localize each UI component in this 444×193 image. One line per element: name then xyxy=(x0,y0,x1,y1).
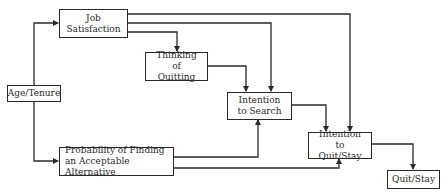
node-thinking-of-quitting: Thinking of Quitting xyxy=(145,52,208,81)
edge-intention-quit-to-quit-stay xyxy=(371,144,413,169)
node-label: Job Satisfaction xyxy=(66,13,120,35)
edge-age-to-probability xyxy=(34,101,58,161)
node-age-tenure: Age/Tenure xyxy=(7,85,61,102)
edge-probability-to-intention-search xyxy=(173,120,258,157)
edge-thinking-to-intention-search xyxy=(207,66,246,91)
node-label: Intention to Quit/Stay xyxy=(315,129,365,162)
node-label: Probability of Finding an Acceptable Alt… xyxy=(65,145,165,178)
node-intention-to-quit-stay: Intention to Quit/Stay xyxy=(308,132,372,159)
node-probability-alternative: Probability of Finding an Acceptable Alt… xyxy=(59,147,174,176)
node-label: Age/Tenure xyxy=(8,88,60,99)
node-intention-to-search: Intention to Search xyxy=(227,92,292,120)
node-job-satisfaction: Job Satisfaction xyxy=(59,9,128,38)
node-label: Intention to Search xyxy=(234,95,285,117)
node-label: Quit/Stay xyxy=(392,174,435,185)
edge-job-satisfaction-to-thinking xyxy=(127,32,177,51)
edge-age-to-job-satisfaction xyxy=(34,23,58,85)
node-quit-stay: Quit/Stay xyxy=(387,170,440,189)
node-label: Thinking of Quitting xyxy=(152,50,201,83)
edge-intention-search-to-intention-quit xyxy=(291,105,326,131)
